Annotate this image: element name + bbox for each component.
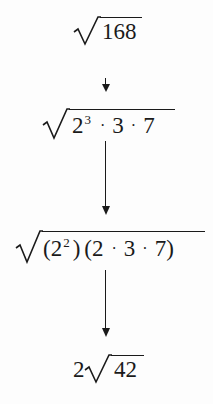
arrow-down-icon (102, 328, 110, 337)
exponent: 2 (63, 235, 70, 250)
open-paren: ( (43, 236, 51, 261)
factor: 7 (155, 236, 167, 261)
arrow-down-icon (102, 206, 110, 215)
vinculum (111, 355, 144, 356)
factor: 2 (92, 236, 104, 261)
close-paren: ) (73, 236, 81, 261)
factor-base: 2 (72, 113, 84, 138)
arrow-shaft (105, 270, 106, 333)
radicand-168: 168 (102, 21, 137, 43)
radicand-42: 42 (114, 359, 137, 381)
multiplication-dot: · (91, 117, 112, 134)
coefficient: 2 (73, 359, 85, 381)
arrow-shaft (105, 141, 106, 211)
radicand-factors: (22)(2·3·7) (43, 238, 174, 263)
radical-sign-icon (15, 230, 43, 264)
vinculum (69, 109, 175, 110)
radical-sign-icon (73, 16, 101, 46)
radical-sign-icon (84, 354, 112, 384)
multiplication-dot: · (135, 240, 154, 257)
multiplication-dot: · (104, 240, 124, 257)
factor: 3 (124, 236, 136, 261)
radical-sign-icon (42, 108, 70, 140)
factor-base: 2 (51, 236, 63, 261)
multiplication-dot: · (124, 117, 143, 134)
radicand-factors: 23·3·7 (72, 115, 155, 140)
factor: 3 (112, 113, 124, 138)
vinculum (100, 17, 142, 18)
arrow-down-icon (102, 84, 110, 92)
factor: 7 (143, 113, 155, 138)
close-paren: ) (166, 236, 174, 261)
vinculum (42, 231, 205, 232)
open-paren: ( (84, 236, 92, 261)
